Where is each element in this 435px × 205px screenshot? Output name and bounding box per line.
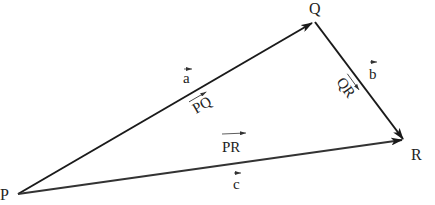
- segment-label-qr: QR: [334, 74, 359, 100]
- point-label-p: P: [0, 186, 9, 203]
- vector-pr-line: [18, 140, 402, 194]
- arrow-over-pr-icon: [222, 133, 246, 134]
- vector-label-c: c: [233, 176, 240, 192]
- vector-qr-line: [315, 22, 403, 139]
- vector-triangle-diagram: P Q R a PQ b QR PR c: [0, 0, 435, 205]
- vector-label-b: b: [369, 66, 377, 82]
- point-label-r: R: [411, 146, 422, 163]
- vector-label-a: a: [183, 70, 190, 86]
- segment-label-pq: PQ: [190, 93, 215, 117]
- point-label-q: Q: [309, 0, 321, 17]
- segment-label-pr: PR: [222, 139, 240, 155]
- vector-pq-line: [18, 23, 312, 194]
